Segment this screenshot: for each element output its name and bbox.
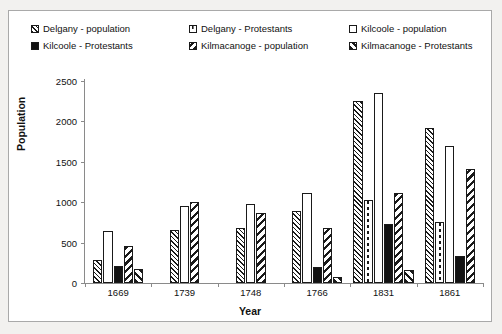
legend-item-delgany-protestants: Delgany - Protestants xyxy=(189,23,349,34)
legend-swatch-icon-kilmacanoge-population xyxy=(189,42,197,50)
x-axis-tick-mark xyxy=(151,283,152,287)
legend-label: Kilcoole - population xyxy=(361,23,447,34)
legend-swatch-icon-kilcoole-population xyxy=(349,25,357,33)
legend-item-kilmacanoge-population: Kilmacanoge - population xyxy=(189,40,349,51)
x-axis-tick-label: 1748 xyxy=(240,287,261,298)
bar xyxy=(124,246,133,283)
bar xyxy=(445,146,454,283)
x-axis-tick-label: 1766 xyxy=(307,287,328,298)
legend-item-kilcoole-population: Kilcoole - population xyxy=(349,23,483,34)
bar xyxy=(455,256,464,283)
bar xyxy=(256,213,265,283)
legend-label: Kilmacanoge - population xyxy=(201,40,308,51)
bar xyxy=(93,260,102,283)
x-axis-tick-mark xyxy=(483,283,484,287)
bar xyxy=(333,277,342,283)
y-axis-title: Population xyxy=(15,97,27,151)
x-axis-tick-label: 1669 xyxy=(108,287,129,298)
x-axis-tick-label: 1861 xyxy=(439,287,460,298)
bar xyxy=(180,206,189,283)
x-axis-tick-mark xyxy=(284,283,285,287)
legend-label: Delgany - Protestants xyxy=(201,23,292,34)
x-axis-tick-label: 1739 xyxy=(174,287,195,298)
bar-group xyxy=(85,81,151,283)
y-axis-tick-label: 2000 xyxy=(43,116,77,127)
bar xyxy=(435,222,444,283)
y-axis-tick-label: 1000 xyxy=(43,197,77,208)
bar xyxy=(134,269,143,283)
bar xyxy=(236,228,245,283)
legend-label: Delgany - population xyxy=(43,23,130,34)
x-axis-tick-mark xyxy=(417,283,418,287)
legend-row-1: Delgany - population Delgany - Protestan… xyxy=(31,20,483,37)
legend-label: Kilcoole - Protestants xyxy=(43,40,133,51)
screenshot-root: Delgany - population Delgany - Protestan… xyxy=(0,0,502,334)
legend-item-kilcoole-protestants: Kilcoole - Protestants xyxy=(31,40,189,51)
y-axis-tick-label: 2500 xyxy=(43,76,77,87)
y-axis-tick-label: 0 xyxy=(43,278,77,289)
bar xyxy=(246,204,255,283)
x-axis-tick-mark xyxy=(350,283,351,287)
chart-legend: Delgany - population Delgany - Protestan… xyxy=(31,20,483,56)
legend-swatch-icon-kilcoole-protestants xyxy=(31,42,39,50)
bar-group xyxy=(350,81,416,283)
x-axis-tick-mark xyxy=(85,283,86,287)
bar xyxy=(170,230,179,283)
chart-frame: Delgany - population Delgany - Protestan… xyxy=(8,10,492,322)
bar-group xyxy=(151,81,217,283)
x-axis-tick-mark xyxy=(218,283,219,287)
bar xyxy=(323,228,332,283)
legend-swatch-icon-delgany-protestants xyxy=(189,25,197,33)
bar xyxy=(103,231,112,283)
y-axis-tick-label: 500 xyxy=(43,237,77,248)
bar-group xyxy=(218,81,284,283)
legend-item-delgany-population: Delgany - population xyxy=(31,23,189,34)
bar xyxy=(374,93,383,283)
x-axis-title: Year xyxy=(9,305,491,317)
legend-swatch-icon-kilmacanoge-protestants xyxy=(349,42,357,50)
bar-group xyxy=(284,81,350,283)
legend-item-kilmacanoge-protestants: Kilmacanoge - Protestants xyxy=(349,40,483,51)
legend-row-2: Kilcoole - Protestants Kilmacanoge - pop… xyxy=(31,37,483,54)
bar xyxy=(114,266,123,283)
bar-group xyxy=(417,81,483,283)
y-axis-tick-label: 1500 xyxy=(43,156,77,167)
plot-area xyxy=(85,81,483,283)
bar xyxy=(384,224,393,283)
bar xyxy=(302,193,311,283)
bar xyxy=(313,267,322,283)
bar xyxy=(404,270,413,283)
bar xyxy=(425,128,434,283)
bar xyxy=(292,211,301,283)
bar xyxy=(364,200,373,283)
bar xyxy=(466,169,475,283)
bar xyxy=(190,202,199,283)
bar xyxy=(394,193,403,283)
bar xyxy=(353,101,362,283)
legend-label: Kilmacanoge - Protestants xyxy=(361,40,472,51)
x-axis-tick-label: 1831 xyxy=(373,287,394,298)
legend-swatch-icon-delgany-population xyxy=(31,25,39,33)
